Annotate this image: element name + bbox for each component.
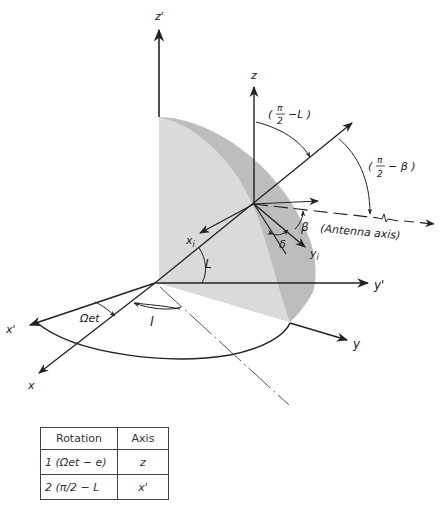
coordinate-rotation-diagram: z' z y' x' x y l Ωet L xi yi δ (Antenna … bbox=[0, 0, 443, 420]
beta-label: β bbox=[300, 220, 309, 234]
delta-label: δ bbox=[279, 238, 286, 251]
pi2-minus-beta-arc bbox=[339, 139, 370, 214]
rotation-cell: 1 (Ωet − e) bbox=[41, 450, 118, 475]
x-prime-label: x' bbox=[5, 323, 16, 336]
rotation-cell: 2 (π/2 − L bbox=[41, 475, 118, 500]
pi2-minus-L-label: ( π 2 −L ) bbox=[268, 103, 311, 126]
z-label: z bbox=[250, 69, 257, 82]
header-rotation: Rotation bbox=[41, 428, 118, 450]
axis-cell: z bbox=[118, 450, 169, 475]
y-axis bbox=[290, 323, 347, 340]
svg-text:(: ( bbox=[268, 108, 273, 121]
pi2-minus-L-arc bbox=[256, 122, 310, 157]
svg-text:(: ( bbox=[368, 160, 373, 173]
equator-arc bbox=[36, 322, 290, 359]
y-label: y bbox=[352, 337, 361, 351]
earth-octant-shading bbox=[159, 117, 316, 322]
svg-text:2: 2 bbox=[377, 169, 383, 179]
antenna-axis-label: (Antenna axis) bbox=[320, 222, 401, 242]
omega-et-label: Ωet bbox=[79, 312, 100, 325]
rotation-table: Rotation Axis 1 (Ωet − e) z 2 (π/2 − L x… bbox=[40, 427, 169, 500]
table-row: 2 (π/2 − L x' bbox=[41, 475, 169, 500]
L-label: L bbox=[205, 257, 212, 271]
z-prime-label: z' bbox=[154, 10, 164, 23]
svg-text:π: π bbox=[377, 155, 383, 165]
pi2-minus-beta-label: ( π 2 − β ) bbox=[368, 155, 416, 179]
yi-label: yi bbox=[309, 247, 320, 262]
svg-text:π: π bbox=[277, 103, 283, 113]
axis-cell: x' bbox=[118, 475, 169, 500]
x-axis bbox=[39, 283, 155, 373]
svg-text:−L ): −L ) bbox=[288, 108, 311, 121]
y-prime-label: y' bbox=[373, 278, 384, 292]
table-row: 1 (Ωet − e) z bbox=[41, 450, 169, 475]
l-label: l bbox=[150, 314, 154, 329]
svg-text:− β ): − β ) bbox=[388, 160, 416, 173]
header-axis: Axis bbox=[118, 428, 169, 450]
x-label: x bbox=[27, 379, 35, 392]
svg-text:2: 2 bbox=[277, 116, 283, 126]
table-header-row: Rotation Axis bbox=[41, 428, 169, 450]
